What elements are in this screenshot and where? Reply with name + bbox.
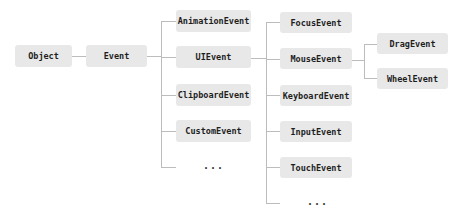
connector bbox=[266, 22, 267, 203]
node-input-event: InputEvent bbox=[280, 121, 352, 142]
connector bbox=[161, 167, 176, 168]
connector bbox=[364, 44, 377, 45]
connector bbox=[266, 22, 280, 23]
connector bbox=[161, 95, 176, 96]
node-clipboard-event: ClipboardEvent bbox=[176, 84, 251, 106]
node-object: Object bbox=[15, 45, 72, 67]
connector bbox=[266, 59, 280, 60]
class-hierarchy-diagram: Object Event AnimationEvent UIEvent Clip… bbox=[0, 0, 461, 224]
node-ui-event: UIEvent bbox=[176, 46, 251, 68]
node-event-more: ... bbox=[203, 160, 224, 171]
connector bbox=[266, 167, 280, 168]
node-touch-event: TouchEvent bbox=[280, 157, 352, 178]
connector bbox=[161, 21, 176, 22]
connector bbox=[251, 58, 266, 59]
connector bbox=[161, 21, 162, 167]
node-custom-event: CustomEvent bbox=[176, 120, 251, 142]
node-mouse-event: MouseEvent bbox=[280, 48, 352, 69]
connector bbox=[364, 44, 365, 78]
connector bbox=[352, 60, 364, 61]
node-keyboard-event: KeyboardEvent bbox=[280, 85, 352, 106]
node-animation-event: AnimationEvent bbox=[176, 10, 251, 32]
connector bbox=[72, 56, 86, 57]
connector bbox=[266, 203, 280, 204]
connector bbox=[266, 95, 280, 96]
node-event: Event bbox=[86, 45, 147, 67]
connector bbox=[161, 57, 176, 58]
connector bbox=[147, 56, 161, 57]
connector bbox=[266, 131, 280, 132]
node-drag-event: DragEvent bbox=[377, 33, 448, 54]
connector bbox=[161, 131, 176, 132]
node-ui-event-more: ... bbox=[307, 196, 328, 207]
node-focus-event: FocusEvent bbox=[280, 12, 352, 33]
connector bbox=[364, 78, 377, 79]
node-wheel-event: WheelEvent bbox=[377, 68, 448, 89]
